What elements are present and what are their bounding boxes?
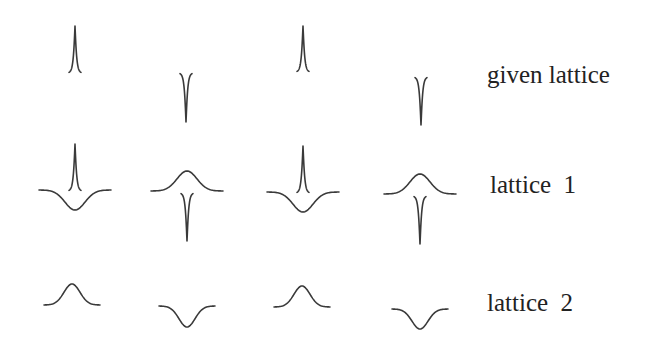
row-label-lattice-1: lattice 1 [490,172,576,197]
row-label-given-lattice: given lattice [487,62,610,87]
row3-site1-wide-bump [44,284,100,305]
row1-site1-narrow-peak [69,26,81,72]
row2-site1-wide-dip [39,190,111,210]
row1-site4-narrow-dip [415,78,427,125]
row2-site1-narrow-peak [69,144,81,190]
row3-site3-wide-bump [274,286,330,307]
row2-site4-narrow-dip [414,197,426,244]
row3-site4-wide-dip [392,309,448,329]
row3-site2-wide-dip [159,306,215,327]
row2-site4-wide-bump [384,174,456,194]
row2-site2-narrow-dip [181,194,193,241]
row2-site3-wide-dip [267,192,339,212]
row-label-lattice-2: lattice 2 [487,290,573,315]
row2-site2-wide-bump [151,171,223,191]
row1-site3-narrow-peak [297,26,309,71]
row2-site3-narrow-peak [297,146,309,192]
row1-site2-narrow-dip [180,74,192,122]
